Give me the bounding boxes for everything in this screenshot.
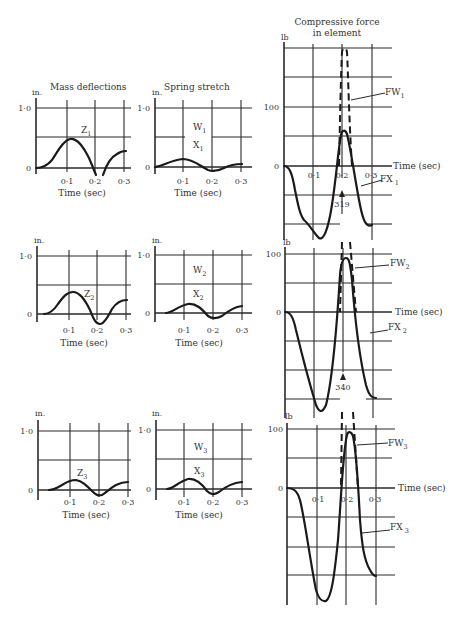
x-axis-label: Time (sec) — [175, 338, 223, 348]
x-tick-03: 0·3 — [236, 498, 249, 507]
fx1-curve — [284, 131, 372, 239]
x-axis-label: Time (sec) — [58, 188, 106, 198]
x-tick-03: 0·3 — [122, 498, 135, 507]
x1-curve — [155, 159, 242, 171]
y-tick-0: 0 — [26, 164, 31, 173]
x-tick-02: 0·2 — [207, 326, 220, 335]
compressive-force-title-line1: Compressive force — [294, 17, 379, 27]
y-tick-0: 0 — [28, 486, 33, 495]
y-tick-0: 0 — [145, 309, 150, 318]
series-label-fx3: FX 3 — [390, 522, 409, 535]
y-tick-1: 1·0 — [19, 252, 32, 261]
x-tick-02: 0·2 — [89, 177, 102, 186]
x-tick-02: 0·2 — [91, 326, 104, 335]
y-unit-label: in. — [152, 236, 162, 245]
annotation-340: 340 — [335, 383, 350, 392]
z3-curve — [49, 480, 128, 495]
mass-deflections-title: Mass deflections — [50, 82, 127, 92]
x-axis-label: Time (sec) — [62, 510, 110, 520]
chart-spring-stretch-3: in. 1·0 0 0·1 0·2 0·3 Time (sec) W3 X3 — [138, 409, 252, 520]
series-label-fw3: FW3 — [388, 438, 408, 451]
x-tick-03: 0·3 — [118, 177, 131, 186]
x-axis-label: Time (sec) — [395, 307, 443, 317]
spring-stretch-title: Spring stretch — [164, 82, 230, 92]
chart-mass-deflection-3: in. 1·0 0 0·1 0·2 0·3 Time (sec) Z3 — [20, 409, 134, 520]
series-label-w3: W3 — [194, 442, 207, 455]
x-tick-03: 0·3 — [235, 177, 248, 186]
series-label-fx2: FX 2 — [388, 322, 407, 335]
x-tick-02: 0·2 — [93, 498, 106, 507]
series-label-fw2: FW2 — [390, 258, 410, 271]
y-unit-label: in. — [34, 236, 44, 245]
x-tick-01: 0·1 — [178, 326, 191, 335]
y-unit-label: lb — [283, 238, 291, 247]
chart-mass-deflection-1: in. 1·0 0 0·1 0·2 0·3 Time (sec) Z1 — [18, 88, 131, 198]
series-label-z1: Z1 — [81, 125, 91, 138]
y-unit-label: in. — [32, 88, 42, 97]
arrow-up-icon — [340, 373, 346, 380]
x-axis-label: Time (sec) — [174, 188, 222, 198]
series-label-fw1: FW1 — [385, 87, 405, 100]
series-label-x1: X1 — [193, 140, 204, 153]
x-tick-02: 0·2 — [341, 495, 354, 504]
y-tick-0: 0 — [145, 163, 150, 172]
x3-curve — [167, 479, 242, 494]
fx2-curve — [285, 258, 376, 411]
y-tick-100: 100 — [268, 425, 283, 434]
y-tick-0: 0 — [276, 308, 281, 317]
chart-mass-deflection-2: in. 1·0 0 0·1 0·2 0·3 Time (sec) Z2 — [19, 236, 132, 348]
series-label-z3: Z3 — [77, 468, 87, 481]
series-label-x2: X2 — [193, 289, 204, 302]
chart-compressive-force-2: lb 100 0 Time (sec) FW2 FX 2 340 — [266, 238, 443, 418]
x-tick-01: 0·1 — [308, 171, 321, 180]
y-tick-1: 1·0 — [18, 104, 31, 113]
x-tick-02: 0·2 — [206, 177, 219, 186]
y-tick-0: 0 — [274, 162, 279, 171]
y-tick-1: 1·0 — [138, 426, 151, 435]
y-unit-label: in. — [35, 409, 45, 418]
y-tick-0: 0 — [278, 484, 283, 493]
annotation-319: 319 — [334, 200, 349, 209]
chart-compressive-force-3: lb 100 0 0·1 0·2 0·3 Time (sec) FW3 FX 3 — [268, 412, 446, 605]
x-tick-02: 0·2 — [336, 171, 349, 180]
x-tick-01: 0·1 — [178, 498, 191, 507]
x-tick-01: 0·1 — [312, 495, 325, 504]
x-tick-03: 0·3 — [365, 171, 378, 180]
y-tick-100: 100 — [266, 250, 281, 259]
y-tick-1: 1·0 — [137, 251, 150, 260]
y-tick-1: 1·0 — [137, 104, 150, 113]
x-tick-01: 0·1 — [64, 498, 77, 507]
x-tick-02: 0·2 — [207, 498, 220, 507]
chart-compressive-force-1: lb 100 0 0·1 0·2 0·3 Time (sec) FW1 FX 1… — [264, 33, 441, 240]
x-tick-03: 0·3 — [120, 326, 133, 335]
figure: Mass deflections Spring stretch Compress… — [0, 0, 457, 620]
chart-spring-stretch-1: in. 1·0 0 0·1 0·2 0·3 Time (sec) W1 X1 — [137, 88, 252, 198]
x-axis-label: Time (sec) — [398, 483, 446, 493]
y-tick-0: 0 — [27, 310, 32, 319]
x-tick-03: 0·3 — [369, 495, 382, 504]
x-tick-01: 0·1 — [177, 177, 190, 186]
y-tick-100: 100 — [264, 103, 279, 112]
series-label-x3: X3 — [194, 466, 205, 479]
compressive-force-title-line2: in element — [313, 28, 362, 38]
x-tick-01: 0·1 — [63, 326, 76, 335]
x-axis-label: Time (sec) — [393, 161, 441, 171]
series-label-w1: W1 — [193, 122, 206, 135]
y-tick-0: 0 — [146, 485, 151, 494]
x-axis-label: Time (sec) — [60, 338, 108, 348]
x-tick-01: 0·1 — [61, 177, 74, 186]
z1-curve — [36, 139, 96, 175]
y-unit-label: lb — [285, 412, 293, 421]
y-unit-label: lb — [281, 33, 289, 42]
arrow-up-icon — [339, 190, 345, 197]
series-label-w2: W2 — [193, 265, 206, 278]
chart-spring-stretch-2: in. 1·0 0 0·1 0·2 0·3 Time (sec) W2 X2 — [137, 236, 252, 348]
y-unit-label: in. — [152, 88, 162, 97]
x-axis-label: Time (sec) — [175, 510, 223, 520]
y-unit-label: in. — [152, 409, 162, 418]
x-tick-03: 0·3 — [236, 326, 249, 335]
x2-curve — [166, 304, 242, 318]
series-label-fx1: FX 1 — [380, 174, 399, 187]
y-tick-1: 1·0 — [20, 427, 33, 436]
